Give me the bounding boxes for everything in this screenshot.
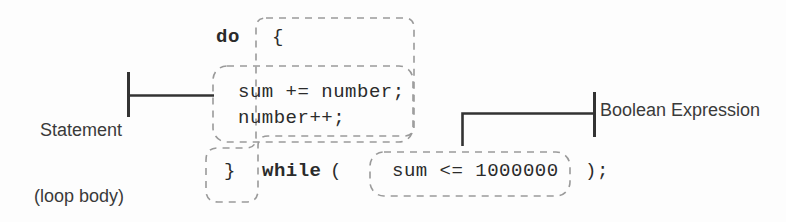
code-token-statement-2: number++; [238,107,345,129]
statement-annotation-line-1: Statement [34,120,122,142]
statement-annotation-label: Statement (loop body) [34,76,122,222]
code-token-right-paren: ); [585,160,609,182]
figure-canvas: do { sum += number; number++; } while ( … [0,0,786,222]
boolean-annotation-label: Boolean Expression [600,100,760,122]
code-token-close-brace: } [224,160,236,182]
code-token-statement-1: sum += number; [238,81,405,103]
boolean-leader-line [463,114,595,147]
code-token-left-paren: ( [330,160,342,182]
code-token-while-keyword: while [262,160,322,182]
code-token-open-brace: { [272,26,284,48]
code-token-condition: sum <= 1000000 [392,160,559,182]
code-token-do-keyword: do [216,26,240,48]
statement-highlight-outline [213,66,413,142]
statement-annotation-line-2: (loop body) [34,186,122,208]
